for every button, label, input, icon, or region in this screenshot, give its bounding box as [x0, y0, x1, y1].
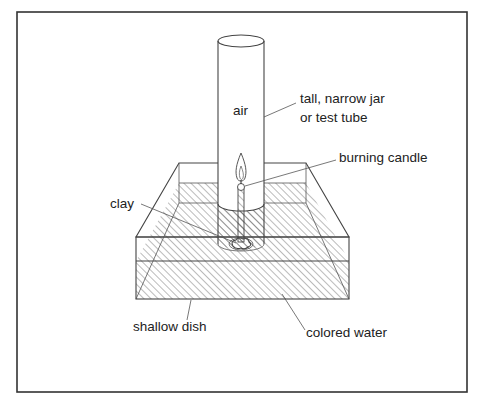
diagram-canvas: air tall, narrow jar or test tube burnin…: [0, 0, 484, 398]
label-water: colored water: [306, 325, 388, 340]
label-jar-line2: or test tube: [300, 110, 368, 125]
label-jar-line1: tall, narrow jar: [300, 91, 385, 106]
label-air: air: [233, 103, 249, 118]
label-clay: clay: [110, 196, 134, 211]
label-candle: burning candle: [339, 150, 428, 165]
jar-leader-line: [264, 103, 296, 117]
water-front: [136, 261, 349, 299]
dish-leader-line: [187, 300, 191, 320]
candle-top: [238, 184, 245, 191]
label-dish: shallow dish: [133, 319, 207, 334]
candle-body: [238, 188, 244, 242]
